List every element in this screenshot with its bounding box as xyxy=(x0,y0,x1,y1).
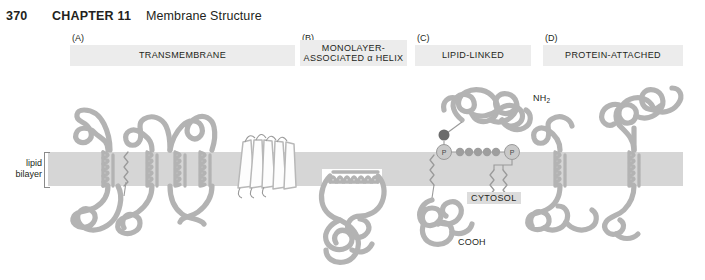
nh2-label: NH2 xyxy=(533,93,550,103)
protein-multi-pass xyxy=(118,116,215,233)
protein-gpi-anchored: P P xyxy=(437,90,531,199)
gpi-link-line xyxy=(447,122,462,133)
cooh-label: COOH xyxy=(458,237,486,247)
sugar-circle-5 xyxy=(492,148,500,156)
protein-lipid-linked-cytosolic xyxy=(420,155,472,244)
lipid-anchor-link-a xyxy=(124,182,126,196)
amphipathic-helix xyxy=(330,172,378,182)
protein-attached-group xyxy=(528,88,681,239)
transmembrane-helices-multi xyxy=(147,152,210,186)
gpi-tail-connector xyxy=(494,160,512,170)
transmembrane-helix-d1 xyxy=(555,152,565,186)
membrane-protein-diagram: P P xyxy=(0,0,705,280)
cytosolic-lipid-anchor xyxy=(430,155,434,185)
phosphate-label-left: P xyxy=(442,149,447,156)
nh2-subscript: 2 xyxy=(546,97,550,104)
transmembrane-helix-a1 xyxy=(103,152,113,186)
protein-beta-barrel xyxy=(238,134,296,198)
ethanolamine-dot xyxy=(439,130,450,141)
protein-single-pass xyxy=(73,110,128,230)
cytosolic-anchor-link xyxy=(432,185,434,198)
sugar-circle-3 xyxy=(474,148,482,156)
phosphate-label-right: P xyxy=(510,149,515,156)
sugar-circle-4 xyxy=(483,148,491,156)
sugar-circle-2 xyxy=(465,148,473,156)
transmembrane-helix-d2 xyxy=(629,152,639,186)
protein-monolayer-associated xyxy=(321,172,384,262)
nh2-text: NH xyxy=(533,93,546,103)
cytosol-label: CYTOSOL xyxy=(467,192,521,204)
lipid-anchor-a xyxy=(124,152,128,186)
sugar-circle-1 xyxy=(456,148,464,156)
